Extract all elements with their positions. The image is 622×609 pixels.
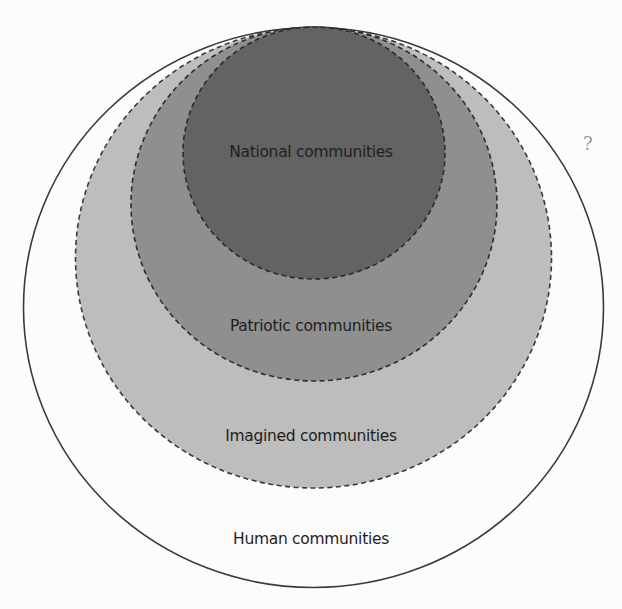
nested-communities-diagram: National communities Patriotic communiti…: [0, 0, 622, 609]
national-communities-label: National communities: [0, 143, 622, 161]
human-communities-label: Human communities: [0, 530, 622, 548]
stray-mark: ?: [583, 133, 593, 154]
patriotic-communities-label: Patriotic communities: [0, 317, 622, 335]
diagram-canvas: [0, 0, 622, 609]
imagined-communities-label: Imagined communities: [0, 427, 622, 445]
